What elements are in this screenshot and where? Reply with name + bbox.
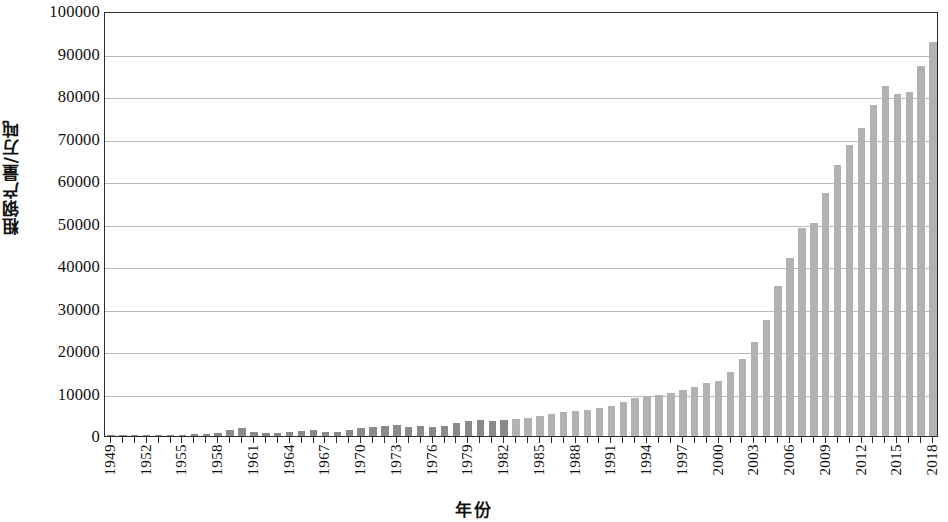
bar <box>906 92 913 436</box>
x-tick-label: 2000 <box>711 444 726 476</box>
x-tick <box>110 437 111 443</box>
x-tick-label: 1976 <box>425 444 440 476</box>
bar <box>620 402 627 436</box>
x-tick <box>372 437 373 443</box>
bar <box>524 418 531 436</box>
x-tick <box>348 437 349 443</box>
x-tick-label: 1991 <box>603 444 618 476</box>
x-tick <box>622 437 623 443</box>
x-tick <box>253 437 254 443</box>
x-tick <box>479 437 480 443</box>
x-tick-label: 1994 <box>639 444 654 476</box>
x-tick <box>598 437 599 443</box>
y-tick-label: 40000 <box>8 259 100 275</box>
x-tick <box>420 437 421 443</box>
bar <box>274 433 281 436</box>
bar <box>453 423 460 437</box>
bar <box>334 432 341 436</box>
bar <box>179 435 186 436</box>
x-tick <box>896 437 897 443</box>
bar <box>381 426 388 436</box>
bar <box>405 427 412 436</box>
y-tick-label: 60000 <box>8 174 100 190</box>
y-axis-tick-labels: 0100002000030000400005000060000700008000… <box>4 0 100 522</box>
y-tick-label: 0 <box>8 429 100 445</box>
steel-production-chart: 粗钢产量/万吨 01000020000300004000050000600007… <box>0 0 948 522</box>
x-tick <box>241 437 242 443</box>
bar <box>250 432 257 436</box>
x-tick <box>813 437 814 443</box>
bar <box>834 165 841 436</box>
x-tick <box>730 437 731 443</box>
x-tick <box>193 437 194 443</box>
x-tick <box>122 437 123 443</box>
bar <box>667 393 674 436</box>
bar <box>774 286 781 436</box>
bar <box>739 359 746 437</box>
x-tick <box>610 437 611 443</box>
x-tick <box>849 437 850 443</box>
x-tick <box>706 437 707 443</box>
plot-area <box>104 12 938 437</box>
bar <box>560 412 567 436</box>
bar <box>441 426 448 436</box>
x-tick <box>670 437 671 443</box>
x-axis-tick-labels: 1949195219551958196119641967197019731976… <box>104 444 938 496</box>
bar <box>858 128 865 436</box>
x-axis-ticks <box>104 437 938 444</box>
bar <box>870 105 877 436</box>
y-tick-label: 70000 <box>8 132 100 148</box>
y-tick-label: 10000 <box>8 387 100 403</box>
bar <box>346 430 353 436</box>
bar <box>882 86 889 436</box>
bar <box>548 414 555 436</box>
bar <box>393 425 400 436</box>
x-tick <box>158 437 159 443</box>
x-tick-label: 1955 <box>174 444 189 476</box>
bar <box>369 427 376 436</box>
x-tick-label: 1982 <box>496 444 511 476</box>
x-tick-label: 1967 <box>317 444 332 476</box>
bar <box>798 228 805 436</box>
x-tick <box>301 437 302 443</box>
bar <box>810 223 817 436</box>
bar <box>465 421 472 436</box>
y-tick-label: 30000 <box>8 302 100 318</box>
x-tick-label: 1997 <box>675 444 690 476</box>
bar <box>894 94 901 436</box>
x-tick <box>134 437 135 443</box>
x-tick <box>527 437 528 443</box>
x-tick-label: 1949 <box>103 444 118 476</box>
bar <box>691 387 698 436</box>
x-tick <box>336 437 337 443</box>
x-tick <box>432 437 433 443</box>
bar <box>846 145 853 436</box>
x-tick <box>146 437 147 443</box>
x-tick-label: 1979 <box>460 444 475 476</box>
bar <box>643 397 650 436</box>
x-tick <box>872 437 873 443</box>
x-tick <box>467 437 468 443</box>
x-tick <box>277 437 278 443</box>
x-tick-label: 2006 <box>782 444 797 476</box>
bar <box>155 435 162 436</box>
bar <box>214 433 221 436</box>
bar <box>751 342 758 436</box>
bar <box>298 431 305 436</box>
x-tick <box>741 437 742 443</box>
x-tick <box>551 437 552 443</box>
x-tick-label: 1988 <box>568 444 583 476</box>
bar <box>786 258 793 436</box>
bar <box>286 432 293 436</box>
bar <box>584 410 591 436</box>
x-tick <box>455 437 456 443</box>
bar <box>763 320 770 436</box>
x-tick <box>515 437 516 443</box>
x-tick <box>313 437 314 443</box>
bar-series <box>105 13 937 436</box>
x-tick <box>324 437 325 443</box>
bar <box>727 372 734 436</box>
x-tick <box>205 437 206 443</box>
bar <box>203 434 210 436</box>
y-tick-label: 90000 <box>8 47 100 63</box>
